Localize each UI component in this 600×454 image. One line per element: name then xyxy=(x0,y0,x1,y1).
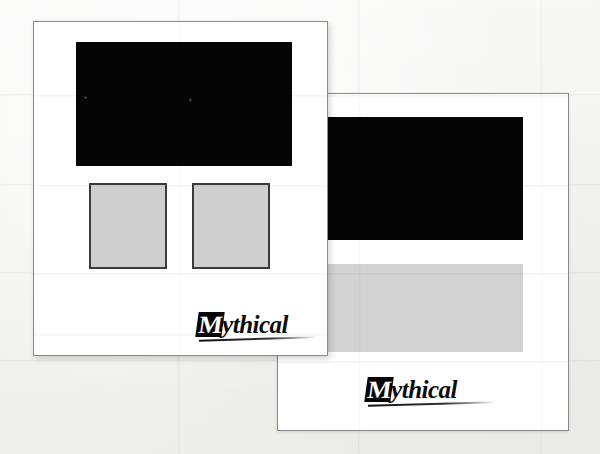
front-gray-swatch-left xyxy=(89,183,167,269)
wordmark-cap-letter: M xyxy=(195,312,225,337)
wordmark-remainder: ythical xyxy=(391,377,457,402)
front-sheet-fold-h-3 xyxy=(34,273,327,275)
back-hero-black-panel xyxy=(306,117,523,240)
back-sheet-fold-v-2 xyxy=(541,94,543,430)
back-sheet-wordmark: Mythical xyxy=(366,377,457,402)
front-sheet[interactable]: Mythical xyxy=(33,21,328,356)
dust-speck-left xyxy=(84,96,87,99)
wordmark-cap-letter: M xyxy=(364,377,394,402)
front-sheet-content: Mythical xyxy=(34,22,327,355)
back-sheet-fold-h-4 xyxy=(278,361,568,363)
front-gray-swatch-right xyxy=(192,183,270,269)
back-gray-swatch-panel xyxy=(328,264,523,352)
front-sheet-wordmark: Mythical xyxy=(197,312,288,337)
wordmark-remainder: ythical xyxy=(222,312,288,337)
dust-speck-right xyxy=(189,98,192,102)
front-sheet-fold-h-2 xyxy=(34,185,327,187)
scanned-photo: Mythical Mythical xyxy=(0,0,600,454)
front-hero-black-panel xyxy=(76,42,292,166)
